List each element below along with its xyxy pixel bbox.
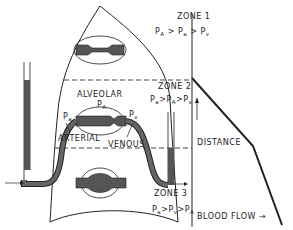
blood-flow-axis-label: BLOOD FLOW → (197, 212, 266, 221)
diagram-canvas: ZONE 1 PA > Pa > Pv ZONE 2 Pa>PA>Pv ZONE… (0, 0, 293, 230)
alveolar-label: ALVEOLAR (77, 90, 123, 99)
zone1-relation: PA > Pa > Pv (155, 27, 210, 37)
venous-label: VENOUS (108, 140, 145, 149)
distance-axis-label: DISTANCE (197, 138, 241, 147)
lung-zones-diagram: ZONE 1 PA > Pa > Pv ZONE 2 Pa>PA>Pv ZONE… (0, 0, 293, 230)
zone1-label: ZONE 1 (177, 12, 210, 21)
zone2-label: ZONE 2 (158, 82, 191, 91)
blood-flow-curve (192, 78, 282, 225)
zone3-label: ZONE 3 (154, 189, 187, 198)
arterial-label: ARTERIAL (58, 134, 100, 143)
